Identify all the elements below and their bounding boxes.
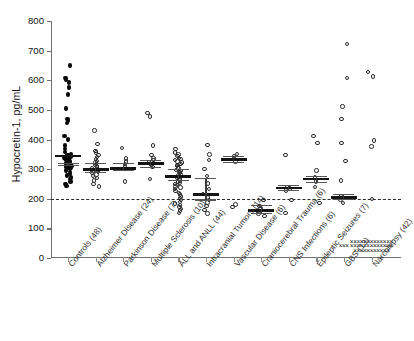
group-sd-connector	[205, 179, 206, 200]
y-tick-label: 200	[4, 193, 44, 204]
data-point	[177, 211, 181, 215]
group-sd-connector	[343, 195, 344, 200]
y-tick	[47, 21, 52, 22]
data-point	[65, 121, 69, 125]
y-tick	[47, 110, 52, 111]
data-point	[207, 187, 211, 191]
data-point	[339, 117, 343, 121]
group-sd-connector	[288, 186, 289, 191]
y-tick-label: 400	[4, 134, 44, 145]
data-point	[66, 137, 70, 141]
y-tick-label: 700	[4, 45, 44, 56]
data-point	[315, 141, 319, 145]
data-point	[340, 104, 344, 108]
data-point	[343, 159, 347, 163]
y-tick-label: 500	[4, 104, 44, 115]
data-point	[64, 184, 68, 188]
data-point	[372, 138, 376, 142]
data-point	[230, 205, 234, 209]
data-point	[151, 143, 155, 147]
data-point	[369, 144, 373, 148]
data-point	[123, 179, 127, 183]
group-sd-connector	[316, 176, 317, 182]
data-point	[313, 185, 317, 189]
data-point	[289, 198, 293, 202]
data-point	[64, 106, 68, 110]
data-point	[366, 70, 370, 74]
data-point	[339, 178, 343, 182]
y-tick	[47, 258, 52, 259]
data-point	[341, 201, 345, 205]
group-sd-connector	[150, 160, 151, 167]
data-point	[262, 214, 266, 218]
y-tick	[47, 228, 52, 229]
data-point	[67, 80, 71, 84]
data-point	[68, 179, 72, 183]
group-sd-connector	[261, 206, 262, 214]
group-sd-connector	[178, 169, 179, 180]
data-point	[207, 152, 211, 156]
data-point	[311, 134, 315, 138]
data-point	[314, 168, 318, 172]
data-point	[178, 185, 182, 189]
y-tick	[47, 140, 52, 141]
data-point	[66, 92, 70, 96]
group-mean-bar	[55, 155, 81, 158]
data-point	[91, 182, 95, 186]
data-point	[92, 128, 96, 132]
data-point	[370, 197, 374, 201]
data-point	[206, 181, 210, 185]
data-point	[205, 143, 209, 147]
y-tick-label: 600	[4, 74, 44, 85]
y-tick-label: 800	[4, 15, 44, 26]
data-point	[205, 211, 209, 215]
group-sd-connector	[233, 156, 234, 163]
y-tick-label: 0	[4, 252, 44, 263]
data-point	[120, 146, 124, 150]
data-point	[345, 42, 349, 46]
data-point	[345, 76, 349, 80]
data-point	[95, 142, 99, 146]
group-sd-connector	[123, 164, 124, 171]
data-point	[371, 74, 375, 78]
y-tick	[47, 80, 52, 81]
y-axis-line	[51, 21, 52, 258]
data-point	[339, 141, 343, 145]
group-sd-connector	[95, 163, 96, 172]
data-point	[207, 158, 211, 162]
data-point	[148, 114, 152, 118]
data-point	[68, 63, 72, 67]
data-point	[283, 153, 287, 157]
y-tick	[47, 51, 52, 52]
y-tick	[47, 169, 52, 170]
data-point	[67, 85, 71, 89]
y-tick-label: 300	[4, 163, 44, 174]
y-tick-label: 100	[4, 222, 44, 233]
data-point	[97, 184, 101, 188]
data-point	[148, 177, 152, 181]
data-point	[202, 167, 206, 171]
group-sd-connector	[67, 164, 68, 166]
